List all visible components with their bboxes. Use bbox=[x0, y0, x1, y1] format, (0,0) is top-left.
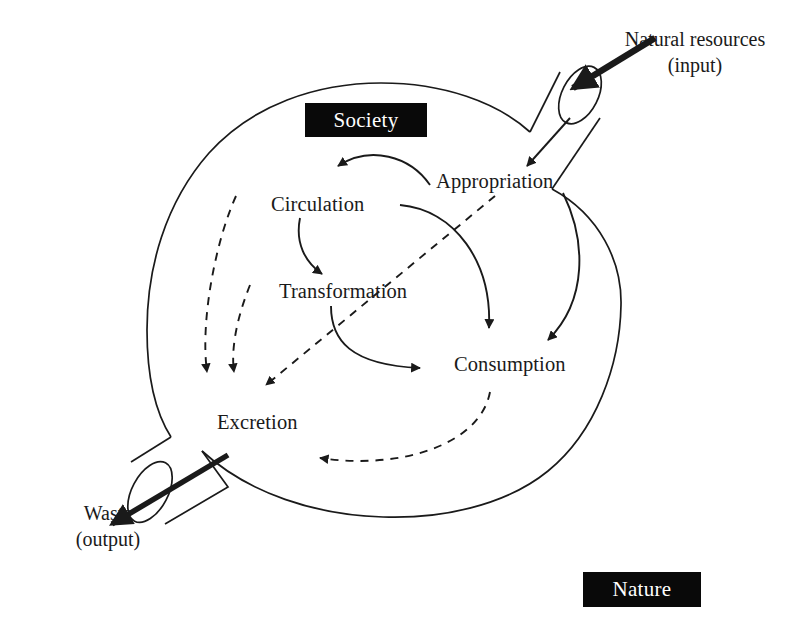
dashed-arrow-transformation-to-excretion bbox=[233, 285, 250, 372]
diagram-canvas: Society Nature Circulation Appropriation… bbox=[0, 0, 800, 643]
node-label-transformation: Transformation bbox=[279, 280, 407, 303]
arrow-appropriation-to-circulation bbox=[338, 155, 430, 185]
node-label-circulation: Circulation bbox=[271, 193, 364, 216]
node-label-appropriation: Appropriation bbox=[436, 170, 553, 193]
input-label-line1: Natural resources bbox=[625, 28, 766, 50]
output-label-line2: (output) bbox=[76, 528, 140, 550]
input-pipe-wall-top bbox=[530, 72, 560, 132]
input-label-line2: (input) bbox=[668, 54, 722, 76]
dashed-arrow-consumption-to-excretion bbox=[320, 392, 490, 461]
waste-output-label: Waste (output) bbox=[48, 501, 168, 552]
arrow-circulation-to-transformation bbox=[299, 218, 322, 274]
nature-tag: Nature bbox=[583, 572, 701, 607]
node-label-consumption: Consumption bbox=[454, 353, 566, 376]
natural-resources-input-label: Natural resources (input) bbox=[600, 27, 790, 78]
arrow-transformation-to-consumption bbox=[331, 306, 420, 368]
arrow-appropriation-to-consumption bbox=[400, 205, 489, 328]
society-tag: Society bbox=[305, 103, 427, 137]
solid-flow-arrows bbox=[299, 118, 580, 368]
node-label-excretion: Excretion bbox=[217, 411, 298, 434]
output-label-line1: Waste bbox=[84, 502, 132, 524]
arrow-input-to-consumption bbox=[548, 193, 579, 340]
output-pipe-wall-top bbox=[131, 437, 171, 462]
dashed-arrow-circulation-to-excretion bbox=[205, 196, 236, 372]
